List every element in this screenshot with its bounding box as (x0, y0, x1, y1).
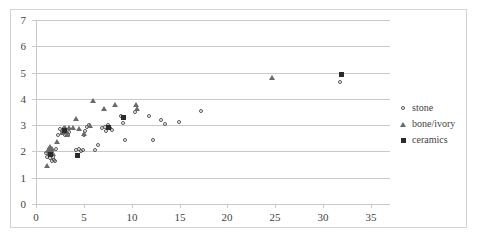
legend-label: ceramics (412, 135, 448, 145)
data-point-bone-ivory (81, 131, 87, 136)
data-point-ceramics (106, 125, 111, 130)
y-gridline (36, 20, 390, 21)
y-gridline (36, 99, 390, 100)
y-axis-label: 3 (6, 120, 26, 131)
legend-item-stone[interactable]: stone (398, 100, 470, 116)
y-axis-label: 4 (6, 94, 26, 105)
data-point-bone-ivory (76, 126, 82, 131)
y-axis-label: 1 (6, 173, 26, 184)
x-axis-label: 5 (72, 212, 96, 223)
data-point-bone-ivory (90, 98, 96, 103)
data-point-stone (53, 159, 57, 163)
y-gridline (36, 178, 390, 179)
y-axis-label: 0 (6, 199, 26, 210)
data-point-bone-ivory (54, 139, 60, 144)
y-axis-label: 5 (6, 68, 26, 79)
data-point-stone (338, 80, 342, 84)
data-point-ceramics (48, 152, 53, 157)
legend-item-ceramics[interactable]: ceramics (398, 132, 470, 148)
data-point-bone-ivory (134, 106, 140, 111)
data-point-stone (123, 138, 127, 142)
chart-legend: stonebone/ivoryceramics (398, 100, 470, 148)
data-point-bone-ivory (49, 146, 55, 151)
x-axis-label: 0 (24, 212, 48, 223)
data-point-stone (133, 110, 137, 114)
x-axis-label: 25 (263, 212, 287, 223)
x-axis-label: 10 (120, 212, 144, 223)
legend-marker-icon (398, 122, 408, 127)
y-gridline (36, 73, 390, 74)
x-axis-label: 35 (359, 212, 383, 223)
data-point-stone (151, 138, 155, 142)
data-point-bone-ivory (112, 102, 118, 107)
legend-label: stone (412, 103, 433, 113)
data-point-bone-ivory (73, 116, 79, 121)
x-tick (227, 204, 228, 208)
x-tick (180, 204, 181, 208)
data-point-stone (177, 120, 181, 124)
x-axis-label: 15 (168, 212, 192, 223)
data-point-ceramics (75, 153, 80, 158)
data-point-bone-ivory (269, 75, 275, 80)
y-gridline (36, 204, 390, 205)
y-axis-label: 7 (6, 15, 26, 26)
y-axis-line (36, 20, 37, 204)
y-gridline (36, 151, 390, 152)
y-axis-label: 6 (6, 41, 26, 52)
data-point-stone (96, 143, 100, 147)
x-axis-label: 20 (215, 212, 239, 223)
data-point-bone-ivory (87, 123, 93, 128)
x-tick (371, 204, 372, 208)
data-point-ceramics (62, 128, 67, 133)
legend-marker-icon (398, 106, 408, 110)
data-point-bone-ivory (101, 106, 107, 111)
data-point-ceramics (339, 72, 344, 77)
legend-item-bone-ivory[interactable]: bone/ivory (398, 116, 470, 132)
x-tick (36, 204, 37, 208)
legend-marker-icon (398, 138, 408, 143)
data-point-stone (121, 121, 125, 125)
x-tick (323, 204, 324, 208)
x-tick (132, 204, 133, 208)
x-tick (275, 204, 276, 208)
data-point-ceramics (121, 115, 126, 120)
y-axis-label: 2 (6, 146, 26, 157)
legend-label: bone/ivory (412, 119, 455, 129)
x-axis-label: 30 (311, 212, 335, 223)
y-gridline (36, 46, 390, 47)
data-point-stone (147, 114, 151, 118)
data-point-bone-ivory (44, 163, 50, 168)
x-tick (84, 204, 85, 208)
data-point-stone (199, 109, 203, 113)
